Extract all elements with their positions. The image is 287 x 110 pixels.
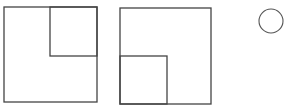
figure-square-bottom-left <box>120 8 211 104</box>
inner-square-top-right <box>50 7 97 56</box>
circle-shape <box>259 9 283 33</box>
figure-square-top-right <box>4 7 97 102</box>
inner-square-bottom-left <box>120 56 167 104</box>
diagram-canvas <box>0 0 287 110</box>
